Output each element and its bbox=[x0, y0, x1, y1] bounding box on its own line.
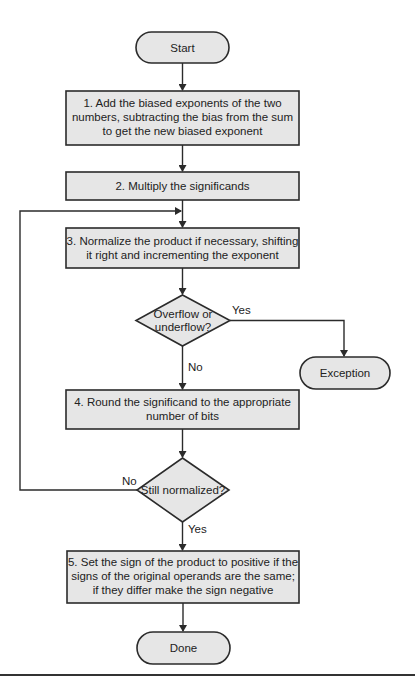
step5-line2: signs of the original operands are the s… bbox=[71, 570, 295, 582]
step3-line2: it right and incrementing the exponent bbox=[86, 249, 279, 261]
arrow-decision1-yes bbox=[230, 321, 344, 357]
decision1-no-label: No bbox=[188, 361, 203, 373]
decision1-diamond: Overflow or underflow? bbox=[136, 295, 230, 346]
decision2-line1: Still normalized? bbox=[141, 484, 225, 496]
step4-line1: 4. Round the significand to the appropri… bbox=[74, 396, 291, 408]
flowchart: Start 1. Add the biased exponents of the… bbox=[0, 0, 415, 680]
step5-line1: 5. Set the sign of the product to positi… bbox=[68, 556, 298, 568]
decision1-line2: underflow? bbox=[155, 321, 211, 333]
step1-line3: to get the new biased exponent bbox=[103, 125, 264, 137]
exception-label: Exception bbox=[320, 367, 371, 379]
decision1-line1: Overflow or bbox=[154, 308, 213, 320]
step2-line1: 2. Multiply the significands bbox=[115, 180, 249, 192]
decision2-no-label: No bbox=[122, 475, 137, 487]
step5-line3: if they differ make the sign negative bbox=[93, 584, 274, 596]
step1-line2: numbers, subtracting the bias from the s… bbox=[72, 111, 293, 123]
step5-box: 5. Set the sign of the product to positi… bbox=[67, 551, 299, 603]
start-node: Start bbox=[136, 32, 229, 63]
step2-box: 2. Multiply the significands bbox=[66, 172, 299, 200]
decision1-yes-label: Yes bbox=[232, 304, 251, 316]
step4-line2: number of bits bbox=[146, 410, 219, 422]
decision2-diamond: Still normalized? bbox=[137, 458, 229, 522]
start-label: Start bbox=[170, 42, 195, 54]
step3-box: 3. Normalize the product if necessary, s… bbox=[66, 228, 299, 268]
done-node: Done bbox=[137, 632, 230, 664]
exception-node: Exception bbox=[300, 357, 390, 389]
step1-line1: 1. Add the biased exponents of the two bbox=[83, 97, 281, 109]
step1-box: 1. Add the biased exponents of the two n… bbox=[66, 91, 299, 145]
done-label: Done bbox=[170, 642, 198, 654]
decision2-yes-label: Yes bbox=[188, 523, 207, 535]
step4-box: 4. Round the significand to the appropri… bbox=[66, 390, 299, 429]
step3-line1: 3. Normalize the product if necessary, s… bbox=[67, 235, 299, 247]
